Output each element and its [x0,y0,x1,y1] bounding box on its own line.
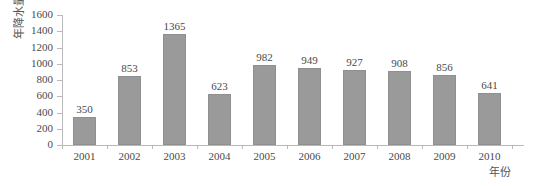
bar-value-2004: 623 [211,80,228,93]
bar-2005[interactable]: 982 [253,65,276,145]
y-tick-label-800: 800 [37,72,54,87]
y-tick-600: 600 [57,96,62,97]
x-label-2003: 2003 [164,149,186,163]
bar-2010[interactable]: 641 [478,93,501,145]
precipitation-bar-chart: 年降水量 / mm 0 200 400 600 800 1000 1200 14… [0,0,539,186]
y-tick-label-0: 0 [48,137,54,152]
x-label-2004: 2004 [209,149,231,163]
y-tick-1200: 1200 [57,48,62,49]
x-axis-line [62,145,524,146]
x-tick-boundary [467,145,468,149]
y-tick-800: 800 [57,80,62,81]
x-tick-boundary [62,145,63,149]
x-label-2005: 2005 [254,149,276,163]
bar-value-2010: 641 [481,79,498,92]
x-label-2009: 2009 [434,149,456,163]
x-tick-boundary [242,145,243,149]
y-tick-label-600: 600 [37,88,54,103]
bar-2002[interactable]: 853 [118,76,141,145]
bar-2009[interactable]: 856 [433,75,456,145]
y-tick-1400: 1400 [57,31,62,32]
x-label-2001: 2001 [74,149,96,163]
x-tick-boundary [287,145,288,149]
bar-2007[interactable]: 927 [343,70,366,145]
bar-2001[interactable]: 350 [73,117,96,145]
y-tick-1600: 1600 [57,15,62,16]
bar-value-2008: 908 [391,57,408,70]
x-axis-title: 年份 [489,165,511,179]
bar-value-2006: 949 [301,54,318,67]
bar-value-2009: 856 [436,61,453,74]
bar-value-2005: 982 [256,51,273,64]
x-label-2010: 2010 [479,149,501,163]
x-label-2002: 2002 [119,149,141,163]
y-tick-label-1600: 1600 [31,7,53,22]
bar-2008[interactable]: 908 [388,71,411,145]
x-label-2008: 2008 [389,149,411,163]
bar-value-2003: 1365 [164,20,186,33]
x-tick-boundary [332,145,333,149]
y-tick-1000: 1000 [57,64,62,65]
y-tick-200: 200 [57,129,62,130]
y-tick-label-1400: 1400 [31,23,53,38]
x-tick-boundary [512,145,513,149]
x-tick-boundary [107,145,108,149]
y-tick-400: 400 [57,113,62,114]
bar-value-2001: 350 [76,103,93,116]
bar-2003[interactable]: 1365 [163,34,186,145]
y-tick-label-400: 400 [37,105,54,120]
y-tick-label-200: 200 [37,121,54,136]
x-tick-boundary [197,145,198,149]
y-tick-label-1200: 1200 [31,40,53,55]
x-tick-boundary [422,145,423,149]
bar-2004[interactable]: 623 [208,94,231,145]
bar-value-2002: 853 [121,62,138,75]
y-axis-title: 年降水量 / mm [10,0,28,54]
plot-area: 0 200 400 600 800 1000 1200 1400 1600 [62,15,524,145]
x-label-2006: 2006 [299,149,321,163]
y-tick-label-1000: 1000 [31,56,53,71]
x-tick-boundary [377,145,378,149]
bar-value-2007: 927 [346,56,363,69]
bar-2006[interactable]: 949 [298,68,321,145]
x-tick-boundary [152,145,153,149]
x-label-2007: 2007 [344,149,366,163]
